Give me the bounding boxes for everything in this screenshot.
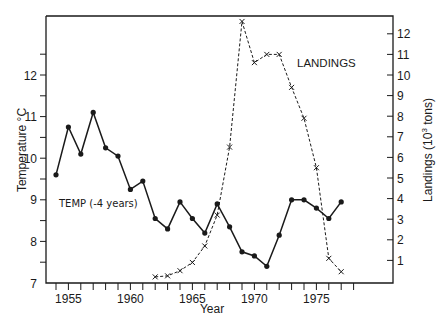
y2-tick-label: 10 — [397, 69, 411, 83]
temperature-point-dot — [326, 216, 331, 221]
temperature-point-dot — [103, 145, 108, 150]
temperature-point-dot — [78, 151, 83, 156]
temperature-point-dot — [128, 187, 133, 192]
temperature-point-dot — [140, 178, 145, 183]
temperature-point-dot — [53, 172, 58, 177]
y-tick-label: 8 — [30, 235, 37, 249]
landings-point-x-marker — [252, 60, 257, 65]
y2-tick-label: 6 — [397, 151, 404, 165]
landings-point-x-marker — [178, 268, 183, 273]
landings-point-x-marker — [326, 256, 331, 261]
temperature-point-dot — [66, 124, 71, 129]
x-tick-label: 1955 — [55, 292, 82, 306]
temperature-point-dot — [153, 216, 158, 221]
temperature-point-dot — [301, 197, 306, 202]
right-y-axis-title-prefix: Landings (10 — [421, 132, 435, 202]
landings-point-x-marker — [190, 260, 195, 265]
y2-tick-label: 9 — [397, 89, 404, 103]
left-y-axis-title: Temperature °C — [15, 108, 29, 192]
right-y-axis-title-suffix: tons) — [421, 98, 435, 128]
y2-tick-label: 1 — [397, 254, 404, 268]
landings-point-x-marker — [339, 269, 344, 274]
x-tick-label: 1975 — [303, 292, 330, 306]
y2-tick-label: 3 — [397, 213, 404, 227]
landings-point-x-marker — [289, 85, 294, 90]
y2-tick-label: 11 — [397, 48, 410, 62]
temperature-point-dot — [202, 230, 207, 235]
temperature-point-dot — [264, 264, 269, 269]
right-y-axis-title: Landings (103 tons) — [420, 98, 435, 202]
y2-tick-label: 12 — [397, 27, 411, 41]
y-tick-label: 7 — [30, 277, 37, 291]
landings-point-x-marker — [202, 243, 207, 248]
temperature-point-dot — [115, 154, 120, 159]
x-tick-label: 1970 — [241, 292, 268, 306]
temperature-point-dot — [289, 197, 294, 202]
temperature-point-dot — [239, 249, 244, 254]
temp-series-annotation: TEMP (-4 years) — [58, 198, 138, 209]
landings-point-x-marker — [264, 52, 269, 57]
x-tick-label: 1960 — [117, 292, 144, 306]
temperature-point-dot — [91, 110, 96, 115]
y2-tick-label: 5 — [397, 172, 404, 186]
y-tick-label: 9 — [30, 193, 37, 207]
landings-point-x-marker — [240, 19, 245, 24]
y2-tick-label: 7 — [397, 130, 404, 144]
landings-series-annotation: LANDINGS — [297, 57, 356, 69]
temperature-point-dot — [252, 253, 257, 258]
temperature-landings-chart: 19551960196519701975 789101112 123456789… — [0, 0, 440, 329]
temperature-point-dot — [227, 224, 232, 229]
temperature-point-dot — [165, 226, 170, 231]
temperature-point-dot — [190, 216, 195, 221]
temperature-line — [56, 112, 341, 266]
y2-tick-label: 8 — [397, 110, 404, 124]
temperature-point-dot — [277, 233, 282, 238]
right-y-axis-ticks: 123456789101112 — [387, 27, 411, 268]
landings-point-x-marker — [277, 52, 282, 57]
y2-tick-label: 4 — [397, 192, 404, 206]
temperature-point-dot — [314, 206, 319, 211]
temperature-series — [53, 110, 343, 269]
temperature-point-dot — [177, 199, 182, 204]
temperature-point-dot — [339, 199, 344, 204]
y-tick-label: 12 — [24, 69, 38, 83]
x-axis-title: Year — [200, 302, 224, 316]
y2-tick-label: 2 — [397, 233, 404, 247]
temperature-point-dot — [215, 201, 220, 206]
